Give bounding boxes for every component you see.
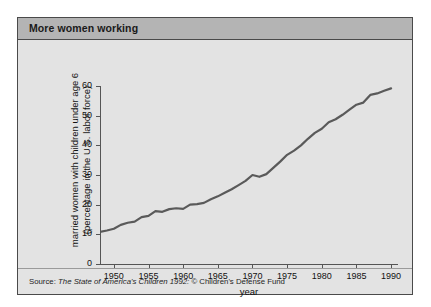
source-title: The State of America's Children 1992: <box>58 277 189 286</box>
figure-panel: More women working married women with ch… <box>17 17 413 295</box>
page-title: More women working <box>29 22 138 34</box>
y-tick-label: 0 <box>52 258 92 268</box>
y-tick-label: 60 <box>52 80 92 90</box>
y-tick-mark <box>96 205 100 206</box>
y-tick-mark <box>96 175 100 176</box>
figure-body: married women with children under age 6 … <box>18 41 412 296</box>
y-axis-title: married women with children under age 6 … <box>69 65 93 255</box>
source-credit: © Children's Defense Fund <box>191 277 284 286</box>
source-note: Source: The State of America's Children … <box>29 277 285 286</box>
figure-title-bar: More women working <box>18 18 412 40</box>
y-tick-label: 40 <box>52 139 92 149</box>
y-tick-mark <box>96 86 100 87</box>
source-note-bar: Source: The State of America's Children … <box>18 268 412 296</box>
y-tick-mark <box>96 264 100 265</box>
y-tick-label: 50 <box>52 110 92 120</box>
y-tick-mark <box>96 145 100 146</box>
y-tick-label: 20 <box>52 199 92 209</box>
y-tick-mark <box>96 116 100 117</box>
y-tick-label: 10 <box>52 228 92 238</box>
y-axis-line <box>100 86 101 265</box>
y-tick-mark <box>96 234 100 235</box>
plot-area: 0102030405060 19501955196019651970197519… <box>100 86 398 265</box>
y-tick-label: 30 <box>52 169 92 179</box>
line-series <box>100 86 398 265</box>
x-axis-line <box>100 264 398 265</box>
source-prefix: Source: <box>29 277 56 286</box>
